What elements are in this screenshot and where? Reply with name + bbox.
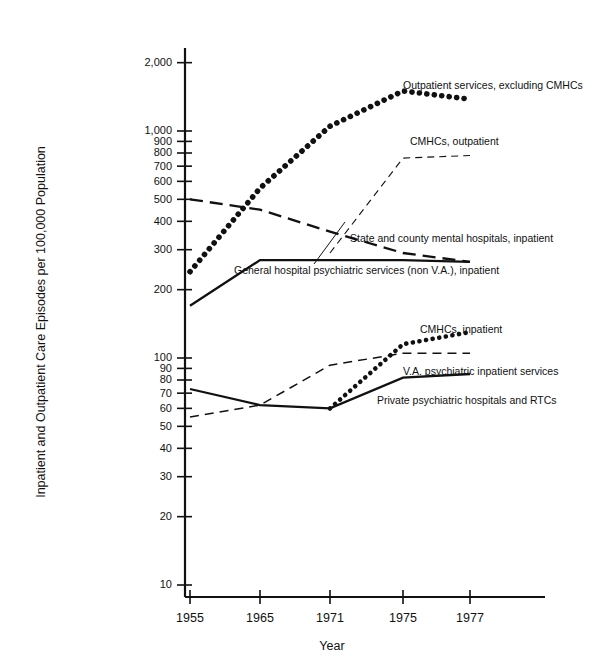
y-tick-label: 10 [160,578,172,590]
y-tick-label: 700 [154,160,172,172]
y-tick-label: 70 [160,387,172,399]
y-tick-label: 200 [154,283,172,295]
series-label: V.A. psychiatric inpatient services [403,365,558,377]
x-tick-label: 1975 [389,611,417,625]
series-label: Private psychiatric hospitals and RTCs [377,394,557,406]
x-axis-title: Year [319,639,344,653]
line-chart-svg: 2,0001,000900800700600500400300200100908… [0,0,593,671]
y-tick-label: 90 [160,362,172,374]
y-tick-label: 50 [160,420,172,432]
y-tick-label: 30 [160,470,172,482]
series-label: General hospital psychiatric services (n… [234,264,499,276]
series-line [190,91,470,272]
series-label: Outpatient services, excluding CMHCs [403,79,583,91]
y-tick-label: 40 [160,442,172,454]
y-tick-label: 500 [154,193,172,205]
x-tick-label: 1977 [456,611,484,625]
y-tick-label: 600 [154,175,172,187]
y-tick-label: 20 [160,510,172,522]
y-tick-label: 300 [154,243,172,255]
x-tick-label: 1965 [246,611,274,625]
series-label: CMHCs, inpatient [420,323,502,335]
y-tick-label: 400 [154,215,172,227]
y-tick-label: 2,000 [144,56,172,68]
series-label: CMHCs, outpatient [410,135,499,147]
series-label: State and county mental hospitals, inpat… [350,232,553,244]
x-tick-label: 1955 [176,611,204,625]
chart-figure: 2,0001,000900800700600500400300200100908… [0,0,593,671]
y-tick-label: 60 [160,402,172,414]
series-annotations: Outpatient services, excluding CMHCsCMHC… [234,79,583,406]
x-axis-ticks: 19551965197119751977 [176,590,484,625]
y-tick-label: 900 [154,135,172,147]
y-axis-title: Inpatient and Outpatient Care Episodes p… [34,146,48,498]
y-tick-label: 80 [160,373,172,385]
x-tick-label: 1971 [316,611,344,625]
y-tick-label: 800 [154,146,172,158]
